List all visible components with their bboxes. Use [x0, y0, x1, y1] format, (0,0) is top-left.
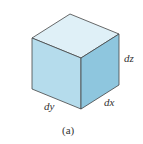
- label-dx: dx: [104, 96, 114, 108]
- figure-caption: (a): [62, 124, 74, 136]
- cube-diagram: [0, 0, 143, 144]
- label-dz: dz: [124, 52, 134, 64]
- label-dy: dy: [44, 100, 54, 112]
- cube-figure: dz dx dy (a): [0, 0, 143, 144]
